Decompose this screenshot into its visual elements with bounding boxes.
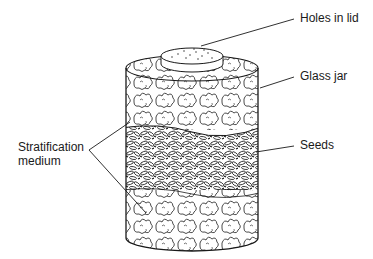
label-seeds: Seeds bbox=[300, 139, 334, 152]
leader-holes-in-lid bbox=[201, 19, 294, 46]
label-stratification-medium-line2: medium bbox=[18, 155, 61, 168]
leader-seeds bbox=[256, 146, 294, 152]
leader-glass-jar bbox=[260, 77, 294, 88]
seed-layer bbox=[120, 126, 265, 197]
jar-lid bbox=[161, 48, 223, 72]
medium-layer-bottom bbox=[120, 190, 265, 255]
label-stratification-medium-line1: Stratification bbox=[18, 141, 84, 154]
label-holes-in-lid: Holes in lid bbox=[300, 12, 359, 25]
leader-medium-top bbox=[89, 122, 130, 150]
jar-diagram bbox=[0, 0, 373, 259]
label-glass-jar: Glass jar bbox=[300, 70, 347, 83]
